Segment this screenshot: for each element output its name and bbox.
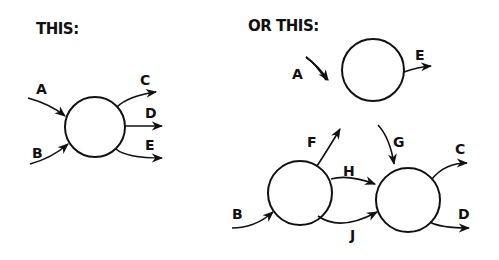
edge-f xyxy=(317,129,340,166)
edge-label-a: A xyxy=(36,81,47,97)
edge-e xyxy=(404,66,431,72)
edge-g xyxy=(378,125,394,164)
edge-a xyxy=(28,98,65,116)
edge-label-f: F xyxy=(307,134,317,150)
diagram-canvas: THIS: A B C D E OR THIS: A E F xyxy=(0,0,499,260)
edge-label-j: J xyxy=(349,227,355,243)
edge-label-b: B xyxy=(32,145,43,161)
edge-label-c: C xyxy=(140,72,150,88)
edge-e xyxy=(116,149,162,158)
edge-label-a: A xyxy=(292,66,303,82)
edge-c xyxy=(432,163,467,179)
edge-label-h: H xyxy=(343,163,355,179)
process-node-bottom-left xyxy=(268,161,332,225)
left-panel: THIS: A B C D E xyxy=(28,20,162,164)
process-node-top xyxy=(342,39,404,101)
edge-label-c: C xyxy=(455,141,465,157)
edge-label-d: D xyxy=(145,105,157,121)
edge-label-b: B xyxy=(232,206,243,222)
process-node xyxy=(65,97,125,157)
right-panel: OR THIS: A E F G H J B C D xyxy=(232,17,470,243)
right-heading: OR THIS: xyxy=(248,17,319,35)
left-heading: THIS: xyxy=(36,20,79,38)
edge-d xyxy=(430,222,469,228)
edge-label-e: E xyxy=(415,47,425,63)
edge-label-g: G xyxy=(393,134,405,150)
edge-label-d: D xyxy=(458,206,470,222)
edge-label-e: E xyxy=(145,137,155,153)
edge-j xyxy=(318,212,377,223)
